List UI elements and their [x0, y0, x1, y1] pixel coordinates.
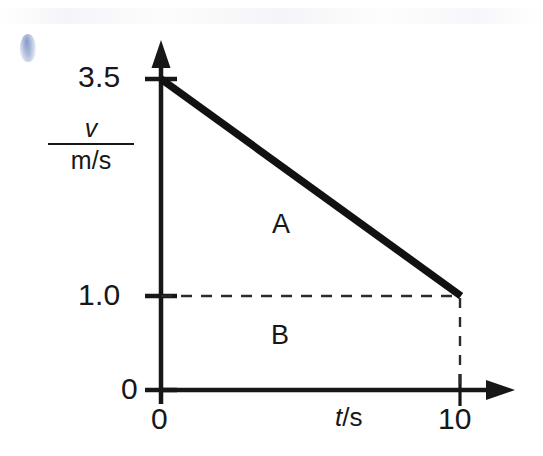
velocity-data-line	[161, 79, 461, 296]
x-axis-tick-label-end: 10	[438, 404, 471, 434]
y-axis-tick-label-mid: 1.0	[78, 280, 120, 310]
y-axis-tick-label-origin: 0	[121, 374, 138, 404]
y-axis-tick-label-top: 3.5	[78, 62, 120, 92]
y-axis-title: v m/s	[44, 116, 138, 173]
y-axis-title-denominator: m/s	[44, 145, 138, 173]
region-label-a: A	[272, 211, 290, 238]
y-axis-title-numerator: v	[44, 116, 138, 143]
x-axis	[161, 380, 515, 400]
velocity-time-graph-figure: 3.5 1.0 0 0 10 v m/s t/s A B	[0, 0, 543, 456]
x-axis-arrow-icon	[486, 380, 515, 400]
x-axis-tick-label-origin: 0	[151, 404, 168, 434]
y-axis	[152, 40, 171, 390]
region-label-b: B	[271, 322, 289, 349]
x-axis-title-unit: /s	[342, 402, 362, 432]
x-axis-title: t/s	[335, 404, 362, 430]
y-axis-arrow-icon	[152, 40, 171, 68]
